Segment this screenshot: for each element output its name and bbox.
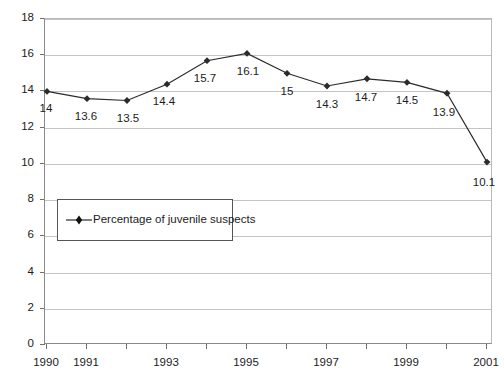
x-axis-tick-mark [86,344,87,349]
x-axis-tick-label: 1993 [153,357,179,369]
x-axis-tick-label: 1997 [313,357,339,369]
x-axis-tick-mark [446,344,447,349]
y-axis-tick-label: 18 [0,12,34,24]
data-point-marker [444,90,451,97]
x-axis-tick-mark [406,344,407,349]
x-axis-tick-label: 1999 [393,357,419,369]
x-axis-tick-mark [366,344,367,349]
data-point-marker [404,79,411,86]
data-point-label: 14.5 [396,95,418,107]
data-point-marker [284,70,291,77]
data-point-marker [44,88,51,95]
y-axis-tick-label: 12 [0,121,34,133]
data-point-label: 13.5 [117,113,139,125]
data-point-label: 16.1 [237,66,259,78]
x-axis-tick-mark [46,344,47,349]
data-point-marker [84,95,91,102]
y-axis-tick-label: 2 [0,302,34,314]
x-axis-tick-mark [206,344,207,349]
data-point-label: 15 [281,86,294,98]
data-point-label: 15.7 [194,73,216,85]
x-axis-tick-mark [486,344,487,349]
data-point-label: 14 [40,103,53,115]
series-percentage-of-juvenile-suspects [45,19,493,345]
data-point-marker [484,159,491,166]
data-point-marker [164,81,171,88]
data-point-label: 14.3 [316,99,338,111]
y-axis-tick-label: 8 [0,193,34,205]
legend-item-label: Percentage of juvenile suspects [93,214,255,226]
x-axis-tick-label: 2001 [473,357,499,369]
chart-legend: Percentage of juvenile suspects [57,199,233,241]
x-axis-tick-mark [326,344,327,349]
y-axis-tick-label: 0 [0,338,34,350]
x-axis-tick-label: 1990 [33,357,59,369]
y-axis-tick-label: 16 [0,48,34,60]
x-axis-tick-label: 1991 [73,357,99,369]
data-point-label: 14.7 [355,92,377,104]
line-chart: 024681012141618 199019911993199519971999… [0,0,504,380]
plot-area [44,18,492,344]
data-point-marker [364,75,371,82]
series-line [47,53,487,162]
data-point-marker [124,97,131,104]
y-axis-tick-label: 4 [0,266,34,278]
data-point-label: 10.1 [473,177,495,189]
data-point-marker [324,83,331,90]
data-point-label: 13.6 [75,111,97,123]
x-axis-tick-label: 1995 [233,357,259,369]
y-axis-tick-label: 6 [0,229,34,241]
data-point-marker [244,50,251,57]
data-point-label: 14.4 [153,96,175,108]
x-axis-tick-mark [246,344,247,349]
x-axis-tick-mark [126,344,127,349]
series-markers [44,50,491,165]
y-axis-tick-label: 10 [0,157,34,169]
data-point-marker [204,57,211,64]
data-point-label: 13.9 [433,107,455,119]
x-axis-tick-mark [286,344,287,349]
x-axis-tick-mark [166,344,167,349]
y-axis-tick-label: 14 [0,84,34,96]
legend-marker-icon [66,214,92,226]
